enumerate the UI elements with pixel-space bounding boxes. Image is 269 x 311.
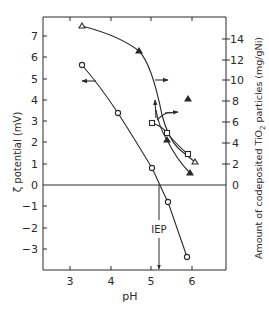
y-tick-label: 2 — [31, 136, 38, 149]
y-tick-label: 2 — [232, 158, 239, 171]
right-y-tick-labels: 14 12 10 8 6 4 2 0 — [230, 33, 244, 192]
y-tick-label: 6 — [232, 116, 239, 129]
left-y-axis-label: ζ potential (mV) — [12, 112, 23, 193]
y-tick-label: 6 — [31, 51, 38, 64]
x-axis-label: pH — [122, 290, 137, 303]
iep-annotation: IEP — [151, 185, 166, 269]
y-tick-label: 10 — [230, 74, 244, 87]
plot-frame — [43, 17, 226, 270]
arrow-up-icon — [155, 100, 156, 118]
x-tick-label: 4 — [108, 275, 115, 288]
right-y-axis-label: Amount of codeposited TiO2 particles (mg… — [253, 37, 267, 259]
series-tio2-b — [150, 112, 191, 157]
iep-label: IEP — [151, 224, 166, 235]
series-zeta-potential — [79, 62, 189, 259]
x-tick-label: 5 — [148, 275, 155, 288]
y-tick-label: 3 — [31, 115, 38, 128]
y-tick-label: 0 — [232, 179, 239, 192]
y-tick-label: 12 — [230, 54, 244, 67]
left-y-ticks — [43, 36, 47, 249]
y-tick-label: 14 — [230, 33, 244, 46]
x-tick-labels: 3 4 5 6 — [67, 275, 196, 288]
y-tick-label: 4 — [232, 137, 239, 150]
y-tick-label: 8 — [232, 95, 239, 108]
y-tick-label: −2 — [22, 222, 38, 235]
x-tick-label: 6 — [189, 275, 196, 288]
y-tick-label: 1 — [31, 158, 38, 171]
y-tick-label: 5 — [31, 73, 38, 86]
x-tick-label: 3 — [67, 275, 74, 288]
chart: 3 4 5 6 pH 7 6 5 4 3 2 1 0 −1 −2 −3 ζ po… — [0, 0, 269, 311]
y-tick-label: 7 — [31, 30, 38, 43]
y-tick-label: −3 — [22, 243, 38, 256]
y-tick-label: 4 — [31, 94, 38, 107]
y-tick-label: −1 — [22, 200, 38, 213]
left-y-tick-labels: 7 6 5 4 3 2 1 0 −1 −2 −3 — [22, 30, 38, 256]
y-tick-label: 0 — [31, 179, 38, 192]
series-tio2-a — [79, 23, 198, 164]
arrow-right-icon — [165, 112, 178, 113]
